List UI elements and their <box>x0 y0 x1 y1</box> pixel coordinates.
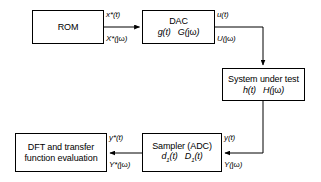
rom-output-freq-arg: jω <box>117 34 125 43</box>
signal-label-sampler-output-time: y*(t) <box>109 133 123 142</box>
rom-output-freq-close: ) <box>125 34 128 43</box>
sampler-adc-label: Sampler (ADC) <box>152 141 212 152</box>
signal-label-rom-output-time: x*(t) <box>106 10 120 19</box>
signal-label-system-output-time: y(t) <box>224 133 235 142</box>
sut-output-freq-open: Y( <box>224 160 232 169</box>
signal-label-dac-output-freq: U(jω) <box>217 34 236 43</box>
sut-frequency-response-open: H( <box>263 85 272 95</box>
rom-block: ROM <box>32 10 104 44</box>
sampler-output-freq-open: Y*( <box>109 160 120 169</box>
sut-frequency-response-arg: jω <box>272 85 281 95</box>
sampler-adc-block: Sampler (ADC) d1(t)D1(t) <box>142 133 222 172</box>
system-under-test-transfer-functions: h(t)H(jω) <box>243 85 284 96</box>
signal-label-rom-output-freq: X*(jω) <box>106 34 127 43</box>
sampler-output-freq-arg: jω <box>120 160 128 169</box>
dac-output-freq-arg: jω <box>225 34 233 43</box>
dft-transfer-function-block: DFT and transfer function evaluation <box>15 133 107 172</box>
signal-label-sampler-output-freq: Y*(jω) <box>109 160 130 169</box>
dac-block-transfer-functions: g(t)G(jω) <box>158 27 200 38</box>
block-diagram-canvas: ROM DAC g(t)G(jω) System under test h(t)… <box>0 0 321 182</box>
sut-impulse-response: h(t) <box>243 85 256 95</box>
dac-output-freq-close: ) <box>233 34 236 43</box>
sampler-adc-functions: d1(t)D1(t) <box>161 151 202 164</box>
dft-block-label-line2: function evaluation <box>24 153 97 164</box>
wire-dac-to-system-under-test <box>215 27 263 65</box>
dac-frequency-response-close: ) <box>196 27 199 37</box>
dac-output-freq-open: U( <box>217 34 225 43</box>
signal-label-dac-output-time: u(t) <box>217 10 229 19</box>
dac-block-label: DAC <box>169 16 188 27</box>
sampler-output-freq-close: ) <box>128 160 131 169</box>
sut-output-freq-arg: jω <box>232 160 240 169</box>
rom-output-freq-open: X*( <box>106 34 117 43</box>
signal-label-system-output-freq: Y(jω) <box>224 160 242 169</box>
system-under-test-label: System under test <box>228 74 299 85</box>
sut-frequency-response-close: ) <box>281 85 284 95</box>
dac-impulse-response: g(t) <box>158 27 171 37</box>
system-under-test-block: System under test h(t)H(jω) <box>222 68 305 101</box>
sut-output-freq-close: ) <box>240 160 243 169</box>
sampler-freq-function-arg: (t) <box>194 151 202 161</box>
dac-frequency-response-open: G( <box>178 27 188 37</box>
sampler-time-function-arg: (t) <box>170 151 178 161</box>
rom-block-label: ROM <box>58 22 79 33</box>
dac-block: DAC g(t)G(jω) <box>142 10 215 44</box>
wire-system-under-test-to-sampler <box>225 101 263 153</box>
dft-block-label-line1: DFT and transfer <box>28 142 94 153</box>
